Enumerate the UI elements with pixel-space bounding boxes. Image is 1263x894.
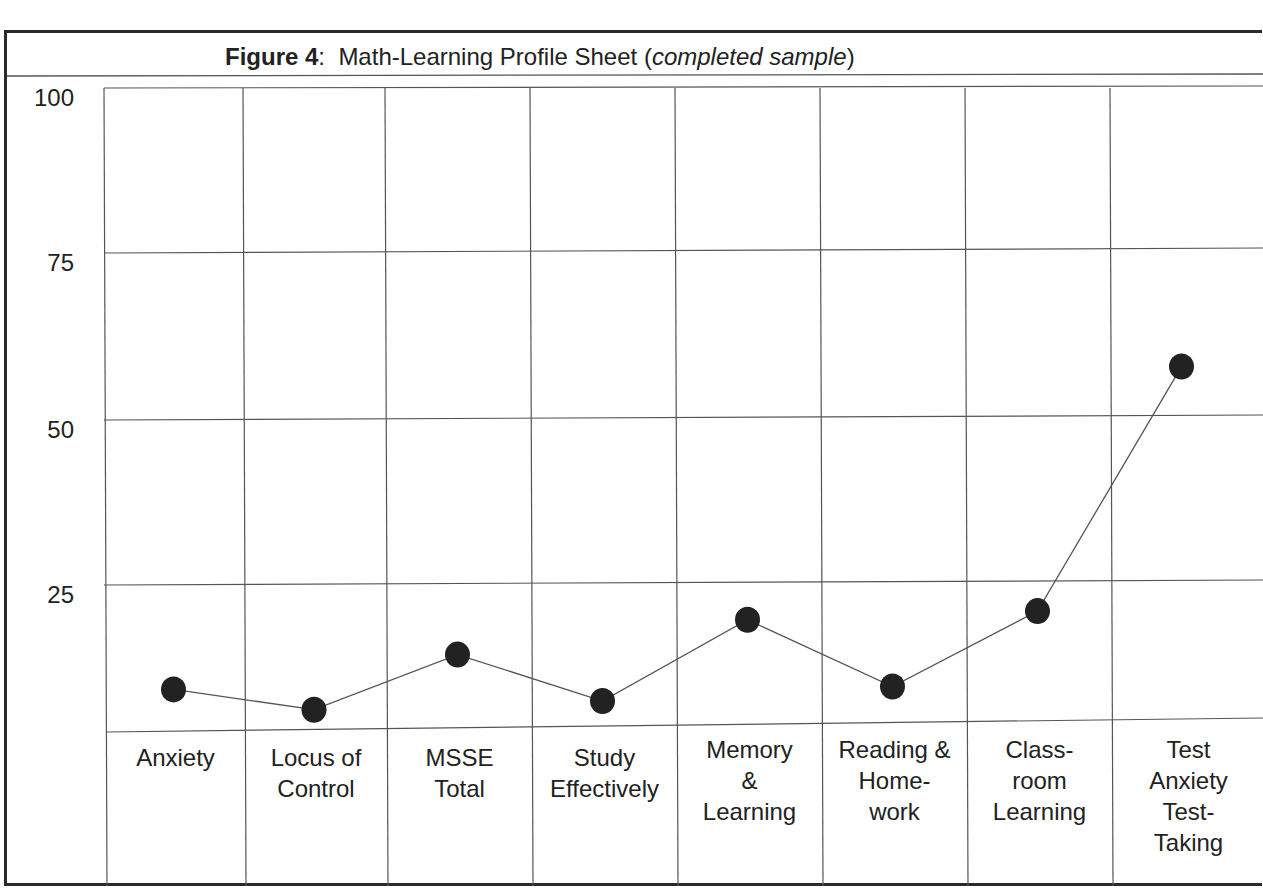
category-label: MSSE Total: [387, 742, 532, 804]
plot-top-border: [104, 86, 1263, 88]
data-point-marker: [1169, 354, 1194, 380]
data-point-marker: [590, 688, 615, 714]
y-tick-label: 100: [4, 84, 74, 112]
category-label: Anxiety: [106, 742, 245, 773]
y-tick-label: 25: [4, 581, 74, 609]
y-tick-label: 75: [4, 249, 74, 277]
horizontal-gridline: [104, 248, 1263, 253]
category-label: Memory & Learning: [677, 734, 822, 827]
category-label: Locus of Control: [245, 742, 387, 804]
horizontal-gridline: [104, 580, 1263, 585]
data-point-marker: [445, 642, 470, 668]
category-label: Class- room Learning: [967, 734, 1112, 827]
category-label: Study Effectively: [532, 742, 677, 804]
data-point-marker: [880, 674, 905, 700]
data-point-marker: [1025, 598, 1050, 624]
plot-baseline: [107, 718, 1263, 732]
title-divider: [7, 74, 1263, 76]
category-label: Test Anxiety Test- Taking: [1112, 734, 1263, 858]
data-point-marker: [302, 697, 327, 723]
data-point-marker: [161, 676, 186, 702]
y-tick-label: 50: [4, 416, 74, 444]
data-point-marker: [735, 607, 760, 633]
category-label: Reading & Home- work: [822, 734, 967, 827]
horizontal-gridline: [104, 415, 1263, 420]
